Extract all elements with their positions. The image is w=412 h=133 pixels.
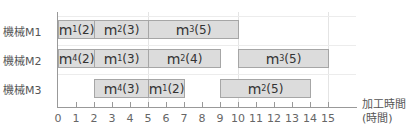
x-tick-label: 10 bbox=[230, 112, 246, 125]
x-tick bbox=[310, 102, 311, 107]
gantt-chart: 機械M1 機械M2 機械M3 m1(2)m2(3)m3(5)m4(2)m1(3)… bbox=[0, 0, 412, 133]
x-tick bbox=[274, 102, 275, 107]
task-duration: (5) bbox=[194, 23, 211, 37]
x-tick bbox=[202, 102, 203, 107]
x-tick bbox=[220, 102, 221, 107]
task-sub: 2 bbox=[261, 84, 266, 93]
task-duration: (3) bbox=[122, 82, 139, 96]
x-tick bbox=[76, 102, 77, 107]
x-tick-label: 14 bbox=[302, 112, 318, 125]
task-sub: 4 bbox=[72, 54, 77, 63]
x-tick-label: 3 bbox=[104, 112, 120, 125]
task-duration: (4) bbox=[185, 52, 202, 66]
x-tick-label: 11 bbox=[248, 112, 264, 125]
task-duration: (2) bbox=[77, 23, 94, 37]
x-tick-label: 8 bbox=[194, 112, 210, 125]
task-bar: m1(3) bbox=[94, 49, 149, 68]
task-sub: 1 bbox=[72, 25, 77, 34]
task-bar: m4(2) bbox=[58, 49, 95, 68]
task-bar: m4(3) bbox=[94, 79, 149, 98]
x-tick bbox=[94, 102, 95, 107]
x-tick-label: 2 bbox=[86, 112, 102, 125]
task-sub: 2 bbox=[117, 25, 122, 34]
x-tick bbox=[166, 102, 167, 107]
x-tick bbox=[184, 102, 185, 107]
task-sub: 1 bbox=[117, 54, 122, 63]
x-tick bbox=[292, 102, 293, 107]
row-label-m2: 機械M2 bbox=[3, 52, 55, 68]
task-sub: 4 bbox=[117, 84, 122, 93]
task-job: m bbox=[104, 51, 118, 67]
task-bar: m3(5) bbox=[148, 20, 239, 39]
task-bar: m1(2) bbox=[148, 79, 185, 98]
x-tick bbox=[238, 102, 239, 107]
task-job: m bbox=[104, 81, 118, 97]
x-tick bbox=[148, 102, 149, 107]
row-label-m3: 機械M3 bbox=[3, 81, 55, 97]
x-tick bbox=[256, 102, 257, 107]
x-tick-label: 13 bbox=[284, 112, 300, 125]
x-axis bbox=[57, 107, 357, 108]
gridline-row1-top bbox=[58, 16, 356, 17]
task-duration: (5) bbox=[284, 52, 301, 66]
task-duration: (2) bbox=[167, 82, 184, 96]
task-duration: (3) bbox=[122, 23, 139, 37]
task-sub: 2 bbox=[180, 54, 185, 63]
gridline-row3-top bbox=[58, 74, 356, 75]
x-tick bbox=[130, 102, 131, 107]
x-tick-label: 1 bbox=[68, 112, 84, 125]
task-job: m bbox=[248, 81, 262, 97]
task-job: m bbox=[266, 51, 280, 67]
task-bar: m2(5) bbox=[220, 79, 311, 98]
x-tick-label: 5 bbox=[140, 112, 156, 125]
x-tick-label: 15 bbox=[320, 112, 336, 125]
task-job: m bbox=[59, 22, 73, 38]
task-job: m bbox=[176, 22, 190, 38]
gridline-row2-top bbox=[58, 45, 356, 46]
task-sub: 1 bbox=[162, 84, 167, 93]
task-duration: (2) bbox=[77, 52, 94, 66]
task-job: m bbox=[167, 51, 181, 67]
task-job: m bbox=[149, 81, 163, 97]
task-bar: m2(3) bbox=[94, 20, 149, 39]
x-tick-label: 7 bbox=[176, 112, 192, 125]
task-job: m bbox=[104, 22, 118, 38]
x-tick-label: 12 bbox=[266, 112, 282, 125]
x-tick-label: 0 bbox=[50, 112, 66, 125]
x-tick bbox=[112, 102, 113, 107]
x-tick-label: 4 bbox=[122, 112, 138, 125]
task-duration: (3) bbox=[122, 52, 139, 66]
task-job: m bbox=[59, 51, 73, 67]
task-sub: 3 bbox=[279, 54, 284, 63]
x-axis-title: 加工時間 bbox=[362, 98, 406, 112]
x-tick bbox=[328, 102, 329, 107]
task-duration: (5) bbox=[266, 82, 283, 96]
x-tick-label: 6 bbox=[158, 112, 174, 125]
task-bar: m1(2) bbox=[58, 20, 95, 39]
x-tick-label: 9 bbox=[212, 112, 228, 125]
row-label-m1: 機械M1 bbox=[3, 23, 55, 39]
task-bar: m3(5) bbox=[238, 49, 329, 68]
task-bar: m2(4) bbox=[148, 49, 221, 68]
x-axis-unit: (時間) bbox=[362, 112, 406, 126]
x-axis-label: 加工時間 (時間) bbox=[362, 98, 406, 126]
task-sub: 3 bbox=[189, 25, 194, 34]
